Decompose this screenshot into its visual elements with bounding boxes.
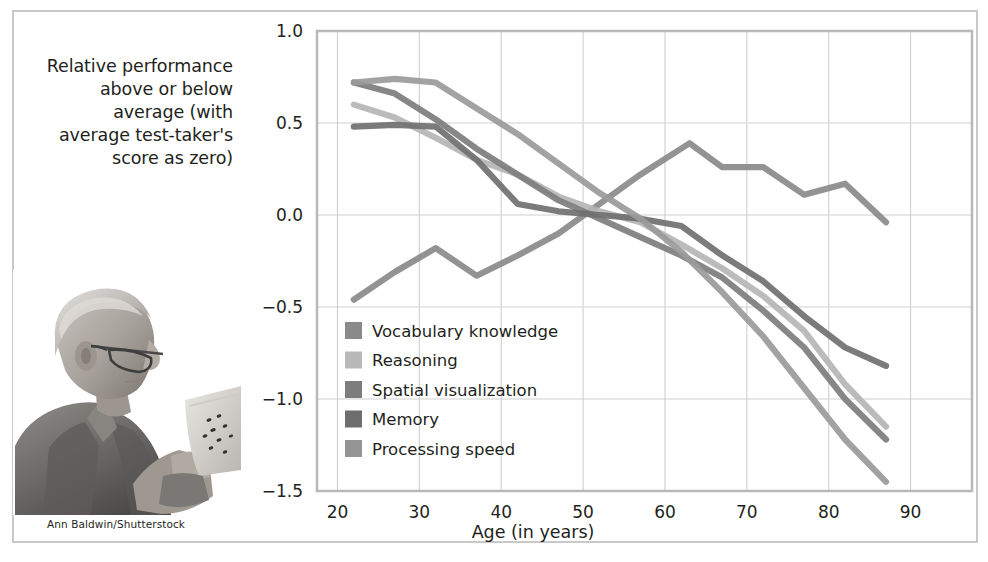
legend-label: Reasoning: [372, 351, 458, 370]
legend-label: Vocabulary knowledge: [372, 322, 558, 341]
legend-swatch: [345, 411, 362, 428]
y-tick-label: −1.0: [262, 389, 303, 409]
y-tick-label: 0.5: [276, 113, 303, 133]
x-tick-label: 60: [654, 502, 676, 522]
x-tick-label: 20: [327, 502, 349, 522]
x-tick-label: 30: [409, 502, 431, 522]
y-tick-label: 0.0: [276, 205, 303, 225]
legend-label: Spatial visualization: [372, 381, 537, 400]
x-tick-label: 50: [572, 502, 594, 522]
y-tick-label: 1.0: [276, 21, 303, 41]
x-tick-label: 70: [736, 502, 758, 522]
legend-label: Processing speed: [372, 440, 515, 459]
line-chart: 2030405060708090 −1.5−1.0−0.50.00.51.0 A…: [0, 0, 988, 562]
legend-swatch: [345, 322, 362, 339]
x-axis-title: Age (in years): [472, 522, 595, 542]
y-axis-tick-labels: −1.5−1.0−0.50.00.51.0: [262, 21, 303, 501]
legend-swatch: [345, 381, 362, 398]
legend-label: Memory: [372, 410, 439, 429]
x-tick-label: 90: [900, 502, 922, 522]
legend-swatch: [345, 352, 362, 369]
figure-root: Relative performanceabove or belowaverag…: [0, 0, 988, 562]
legend-swatch: [345, 440, 362, 457]
series-line: [354, 105, 886, 427]
y-tick-label: −0.5: [262, 297, 303, 317]
chart-legend: Vocabulary knowledgeReasoningSpatial vis…: [345, 322, 558, 459]
series-line: [354, 143, 886, 299]
y-tick-label: −1.5: [262, 481, 303, 501]
x-tick-label: 80: [818, 502, 840, 522]
x-axis-tick-labels: 2030405060708090: [327, 502, 922, 522]
x-tick-label: 40: [490, 502, 512, 522]
